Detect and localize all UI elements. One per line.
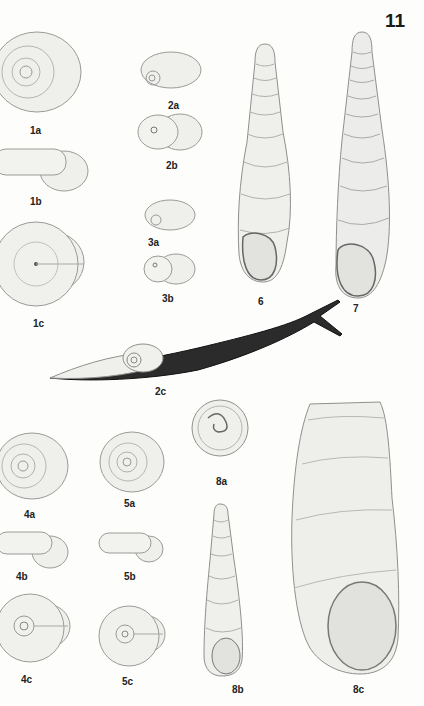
shell-3b-illustration [142,252,198,288]
shell-4c-illustration [0,592,74,666]
shell-3a-illustration [142,198,198,234]
label-1b: 1b [30,196,42,207]
plate-number: 11 [385,10,405,32]
label-4a: 4a [24,509,35,520]
shell-5c-illustration [97,604,167,668]
shell-8b-illustration [198,500,252,678]
shell-6-illustration [235,42,295,292]
label-8b: 8b [232,684,244,695]
shell-1a-illustration [0,28,92,118]
shell-5b-illustration [97,527,167,567]
label-2b: 2b [166,160,178,171]
shell-8a-illustration [190,398,250,460]
shell-7-illustration [332,30,394,302]
shell-5a-illustration [98,430,168,494]
label-3a: 3a [148,237,159,248]
label-5b: 5b [124,571,136,582]
slug-2c-illustration [48,296,343,386]
label-7: 7 [353,303,359,314]
label-1c: 1c [33,318,44,329]
label-1a: 1a [30,125,41,136]
label-5a: 5a [124,498,135,509]
label-2a: 2a [168,100,179,111]
shell-4a-illustration [0,430,74,502]
shell-2b-illustration [136,112,202,154]
label-4b: 4b [16,571,28,582]
label-8c: 8c [353,684,364,695]
shell-8c-illustration [280,398,400,680]
shell-1b-illustration [0,145,94,193]
shell-4b-illustration [0,526,72,572]
label-5c: 5c [122,676,133,687]
label-4c: 4c [21,674,32,685]
label-2c: 2c [155,386,166,397]
shell-2a-illustration [137,50,203,92]
label-8a: 8a [216,476,227,487]
